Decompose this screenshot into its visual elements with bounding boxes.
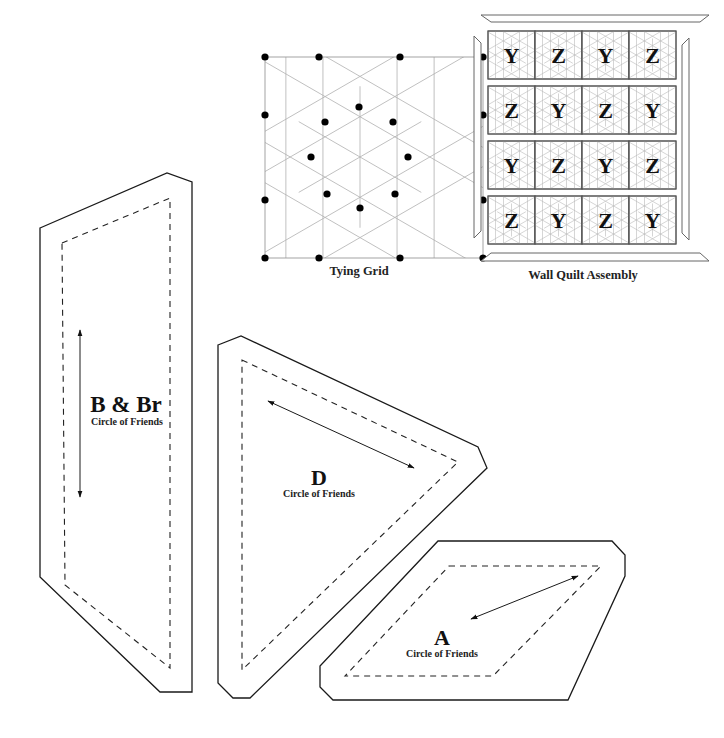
tying-point [396,53,403,60]
piece-a-label: A [434,625,450,650]
block-letter: Y [551,98,567,123]
tying-point [261,53,268,60]
block-letter: Z [551,153,566,178]
block-letter: Z [645,153,660,178]
block-letter: Z [504,98,519,123]
tying-point [396,254,403,261]
block-letter: Z [598,98,613,123]
block-letter: Y [598,153,614,178]
block-letter: Z [551,43,566,68]
border-strip-top [481,15,709,22]
wall-quilt-caption: Wall Quilt Assembly [528,268,638,282]
tying-grid-caption: Tying Grid [329,264,388,278]
tying-point [323,190,330,197]
block-letter: Y [645,98,661,123]
piece-d-sublabel: Circle of Friends [283,488,355,499]
block-letter: Y [504,153,520,178]
pattern-sheet: Tying Grid YZYZZYZYYZYZZYZY Wall Quilt A… [0,0,724,738]
tying-point [389,118,396,125]
block-letter: Z [598,208,613,233]
piece-a-sublabel: Circle of Friends [406,648,478,659]
tying-point [307,153,314,160]
tying-point [356,204,363,211]
block-letter: Y [551,208,567,233]
tying-point [261,196,268,203]
border-strip-right [682,38,689,240]
tying-point [315,254,322,261]
tying-point [321,118,328,125]
tying-point [391,190,398,197]
block-letter: Z [645,43,660,68]
template-piece-b-br: B & Br Circle of Friends [40,173,192,692]
tying-point [261,254,268,261]
piece-b-label: B & Br [90,392,162,417]
border-strip-bottom [481,253,709,261]
piece-b-cutting-line [40,173,192,692]
block-letter: Y [598,43,614,68]
block-letter: Y [504,43,520,68]
piece-d-label: D [311,465,327,490]
tying-point [404,153,411,160]
tying-grid-frame [265,57,483,258]
block-letter: Y [645,208,661,233]
tying-point [261,111,268,118]
border-strip-left [474,36,481,238]
piece-b-sublabel: Circle of Friends [91,416,163,427]
tying-point [315,53,322,60]
tying-point [355,103,362,110]
block-letter: Z [504,208,519,233]
